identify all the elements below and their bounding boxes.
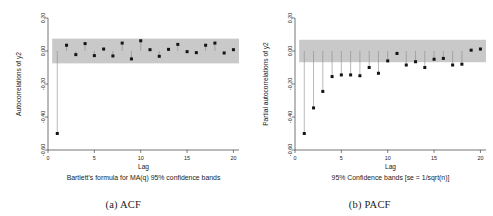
data-point-marker (376, 72, 379, 75)
panel-pacf: 0.200.00-0.20-0.40-0.6005101520LagPartia… (247, 0, 493, 216)
data-point-marker (302, 132, 305, 135)
y-axis-title: Autocorrelations of y2 (15, 52, 23, 116)
panel-acf: 0.200.00-0.20-0.40-0.6005101520LagAutoco… (0, 0, 247, 216)
y-tick-label: 0.20 (40, 13, 46, 24)
plot-subtitle: Bartlett's formula for MA(q) 95% confide… (67, 174, 221, 182)
data-point-marker (441, 57, 444, 60)
data-point-marker (56, 132, 59, 135)
data-point-marker (414, 60, 417, 63)
x-tick-label: 0 (293, 155, 296, 161)
data-point-marker (339, 73, 342, 76)
data-point-marker (167, 48, 170, 51)
acf-plot: 0.200.00-0.20-0.40-0.6005101520LagAutoco… (0, 0, 247, 185)
x-tick-label: 5 (93, 155, 96, 161)
y-axis-title: Partial autocorrelations of y2 (262, 42, 270, 126)
y-tick-label: 0.00 (40, 46, 46, 57)
figure-row: 0.200.00-0.20-0.40-0.6005101520LagAutoco… (0, 0, 493, 216)
x-tick-label: 15 (184, 155, 190, 161)
x-axis-title: Lag (138, 163, 149, 171)
data-point-marker (232, 48, 235, 51)
data-point-marker (223, 51, 226, 54)
data-point-marker (102, 48, 105, 51)
y-tick-label: -0.40 (40, 111, 46, 123)
data-point-marker (349, 73, 352, 76)
data-point-marker (186, 50, 189, 53)
data-point-marker (148, 48, 151, 51)
x-tick-label: 20 (477, 155, 483, 161)
y-tick-label: -0.20 (40, 78, 46, 90)
caption-acf: (a) ACF (0, 199, 247, 210)
x-axis-title: Lag (384, 163, 395, 171)
data-point-marker (321, 90, 324, 93)
y-tick-label: 0.00 (287, 46, 293, 57)
data-point-marker (451, 64, 454, 67)
caption-pacf: (b) PACF (247, 199, 493, 210)
data-point-marker (478, 48, 481, 51)
data-point-marker (176, 43, 179, 46)
data-point-marker (386, 59, 389, 62)
data-point-marker (213, 42, 216, 45)
data-point-marker (312, 106, 315, 109)
data-point-marker (404, 64, 407, 67)
data-point-marker (367, 66, 370, 69)
data-point-marker (158, 55, 161, 58)
data-point-marker (65, 44, 68, 47)
x-tick-label: 0 (47, 155, 50, 161)
data-point-marker (395, 52, 398, 55)
data-point-marker (195, 51, 198, 54)
data-point-marker (93, 54, 96, 57)
data-point-marker (139, 39, 142, 42)
data-point-marker (74, 53, 77, 56)
data-point-marker (358, 74, 361, 77)
data-point-marker (121, 42, 124, 45)
x-tick-label: 5 (339, 155, 342, 161)
data-point-marker (460, 63, 463, 66)
data-point-marker (84, 42, 87, 45)
confidence-band (299, 40, 486, 62)
data-point-marker (432, 58, 435, 61)
pacf-plot: 0.200.00-0.20-0.40-0.6005101520LagPartia… (247, 0, 493, 185)
confidence-band (52, 39, 239, 64)
data-point-marker (469, 49, 472, 52)
y-tick-label: 0.20 (287, 13, 293, 24)
plot-subtitle: 95% Confidence bands [se = 1/sqrt(n)] (331, 174, 449, 182)
x-tick-label: 20 (230, 155, 236, 161)
data-point-marker (130, 57, 133, 60)
x-tick-label: 15 (431, 155, 437, 161)
data-point-marker (111, 54, 114, 57)
data-point-marker (423, 66, 426, 69)
y-tick-label: -0.20 (287, 78, 293, 90)
data-point-marker (204, 44, 207, 47)
y-tick-label: -0.40 (287, 111, 293, 123)
x-tick-label: 10 (384, 155, 390, 161)
data-point-marker (330, 75, 333, 78)
y-tick-label: -0.60 (40, 144, 46, 156)
x-tick-label: 10 (138, 155, 144, 161)
y-tick-label: -0.60 (287, 144, 293, 156)
